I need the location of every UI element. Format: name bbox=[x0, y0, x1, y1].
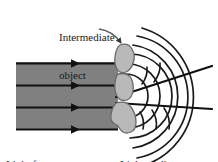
label-light-to-screen: Light to distant screen bbox=[120, 133, 187, 162]
label-light-to-screen-line1: Light to distant bbox=[120, 158, 187, 162]
label-intermediate-object: Intermediate object bbox=[59, 6, 115, 106]
label-light-from-source: Light from distant source bbox=[6, 133, 67, 162]
label-intermediate-object-line1: Intermediate bbox=[59, 31, 115, 44]
object-lobe-middle bbox=[115, 74, 134, 101]
label-intermediate-object-line2: object bbox=[59, 69, 115, 82]
intermediate-object-shape bbox=[111, 44, 136, 133]
object-lobe-upper bbox=[115, 44, 135, 72]
label-light-from-source-line1: Light from bbox=[6, 158, 67, 162]
diffraction-figure: Intermediate object Light from distant s… bbox=[0, 0, 218, 162]
